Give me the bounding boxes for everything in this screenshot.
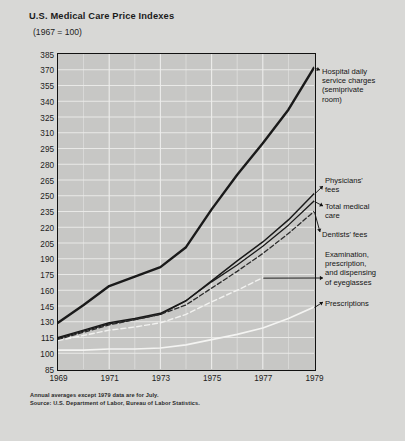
annotation-eyeglasses: Examination, prescription, and dispensin… (325, 250, 376, 287)
plot-frame (57, 53, 316, 371)
leader-arrowhead (319, 203, 323, 207)
x-tick-label: 1977 (254, 374, 272, 383)
footnote-line-2: Source: U.S. Department of Labor, Bureau… (30, 400, 200, 406)
y-tick-label: 175 (20, 271, 54, 280)
chart-canvas (58, 54, 314, 369)
annotation-prescriptions: Prescriptions (325, 299, 369, 308)
y-tick-label: 310 (20, 129, 54, 138)
y-tick-label: 115 (20, 334, 54, 343)
y-tick-label: 385 (20, 51, 54, 60)
x-tick-label: 1969 (49, 374, 67, 383)
x-tick-label: 1979 (305, 374, 323, 383)
y-tick-label: 205 (20, 240, 54, 249)
y-tick-label: 130 (20, 318, 54, 327)
annotation-total-medical-care: Total medical care (325, 202, 369, 220)
leader-arrowhead (319, 186, 323, 190)
leader-arrowhead (316, 67, 320, 71)
y-tick-label: 220 (20, 224, 54, 233)
y-tick-label: 355 (20, 82, 54, 91)
y-tick-label: 145 (20, 303, 54, 312)
chart-subtitle: (1967 = 100) (33, 27, 82, 37)
y-tick-label: 280 (20, 161, 54, 170)
y-tick-label: 250 (20, 192, 54, 201)
annotation-dentists: Dentists' fees (322, 230, 367, 239)
x-tick-label: 1971 (101, 374, 119, 383)
x-tick-label: 1975 (203, 374, 221, 383)
y-tick-label: 295 (20, 145, 54, 154)
footnote-line-1: Annual averages except 1979 data are for… (30, 392, 159, 398)
leader-arrowhead (317, 228, 321, 232)
plot-area (57, 53, 316, 371)
y-tick-label: 370 (20, 66, 54, 75)
y-tick-label: 265 (20, 177, 54, 186)
y-tick-label: 325 (20, 114, 54, 123)
y-axis-labels: 3853703553403253102952802652502352202051… (20, 48, 54, 376)
annotation-physicians: Physicians' fees (325, 176, 363, 194)
annotation-hospital: Hospital daily service charges (semipriv… (322, 67, 375, 104)
y-tick-label: 100 (20, 350, 54, 359)
y-tick-label: 235 (20, 208, 54, 217)
y-tick-label: 160 (20, 287, 54, 296)
y-tick-label: 190 (20, 255, 54, 264)
leader-arrowhead (320, 276, 323, 280)
x-tick-label: 1973 (152, 374, 170, 383)
leader-arrowhead (319, 302, 323, 306)
x-axis-labels: 196919711973197519771979 (40, 374, 370, 388)
chart-figure: U.S. Medical Care Price Indexes (1967 = … (0, 0, 405, 441)
chart-title: U.S. Medical Care Price Indexes (29, 11, 174, 21)
y-tick-label: 340 (20, 98, 54, 107)
